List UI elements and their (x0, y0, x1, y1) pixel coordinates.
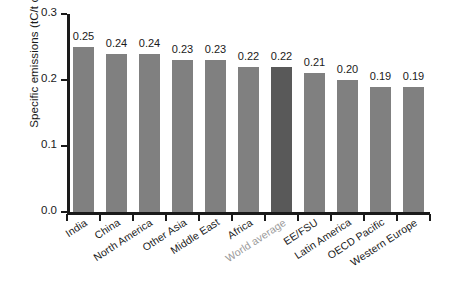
bar: 0.25 (73, 47, 95, 212)
x-tick-mark (165, 214, 167, 221)
bar-value-label: 0.20 (337, 63, 358, 75)
x-tick-mark (198, 214, 200, 221)
x-tick-mark (429, 214, 431, 221)
bar-value-label: 0.24 (106, 37, 127, 49)
y-tick-mark (61, 145, 67, 147)
bar-value-label: 0.22 (271, 50, 292, 62)
bar-value-label: 0.25 (73, 30, 94, 42)
bar-value-label: 0.23 (205, 43, 226, 55)
bar: 0.20 (337, 80, 359, 212)
y-tick-mark (61, 211, 67, 213)
bar-value-label: 0.23 (172, 43, 193, 55)
bar: 0.21 (304, 73, 326, 212)
bar: 0.23 (172, 60, 194, 212)
x-tick-mark (264, 214, 266, 221)
y-tick-mark (61, 79, 67, 81)
y-axis-title: Specific emissions (tC/t cement) (28, 0, 40, 154)
bar: 0.24 (139, 54, 161, 212)
bar: 0.19 (403, 87, 425, 212)
bar: 0.23 (205, 60, 227, 212)
bar-chart-figure: Specific emissions (tC/t cement) 0.00.10… (0, 0, 450, 303)
bar: 0.24 (106, 54, 128, 212)
x-tick-mark (99, 214, 101, 221)
y-tick-label: 0.1 (41, 138, 57, 150)
x-tick-mark (330, 214, 332, 221)
y-tick-label: 0.0 (41, 204, 57, 216)
bar-value-label: 0.24 (139, 37, 160, 49)
bar-value-label: 0.21 (304, 56, 325, 68)
bar: 0.22 (271, 67, 293, 212)
x-tick-mark (396, 214, 398, 221)
x-tick-mark (297, 214, 299, 221)
x-axis-spine (67, 212, 430, 215)
bar-value-label: 0.19 (403, 70, 424, 82)
bar-value-label: 0.19 (370, 70, 391, 82)
x-tick-mark (231, 214, 233, 221)
bar: 0.19 (370, 87, 392, 212)
bar-value-label: 0.22 (238, 50, 259, 62)
x-tick-mark (132, 214, 134, 221)
x-tick-mark (363, 214, 365, 221)
y-axis-spine (67, 14, 70, 212)
bar: 0.22 (238, 67, 260, 212)
plot-area: 0.00.10.20.3 0.250.240.240.230.230.220.2… (67, 14, 430, 212)
y-tick-label: 0.3 (41, 6, 57, 18)
x-tick-mark (66, 214, 68, 221)
y-tick-mark (61, 13, 67, 15)
y-tick-label: 0.2 (41, 72, 57, 84)
